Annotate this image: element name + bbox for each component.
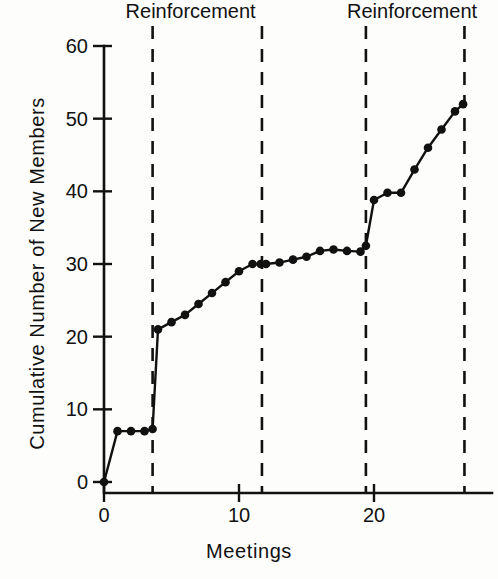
data-point (140, 427, 149, 436)
data-point (383, 188, 392, 197)
data-point (362, 242, 371, 251)
data-point (302, 252, 311, 261)
data-point (100, 478, 109, 487)
data-point (316, 247, 325, 256)
data-point (437, 125, 446, 134)
data-point (329, 245, 338, 254)
cumulative-record-chart: 010203040506001020 ReinforcementReinforc… (0, 0, 498, 579)
data-point (289, 255, 298, 264)
reinforcement-label-2: Reinforcement (347, 0, 477, 23)
data-point (208, 289, 217, 298)
data-point (424, 143, 433, 152)
y-axis-title: Cumulative Number of New Members (26, 74, 49, 474)
data-point (148, 425, 157, 434)
data-point (459, 100, 468, 109)
data-point (113, 427, 122, 436)
data-point (275, 258, 284, 267)
y-tick-label-60: 60 (40, 35, 88, 58)
reinforcement-label-1: Reinforcement (126, 0, 256, 23)
data-point (262, 260, 271, 269)
data-point (410, 165, 419, 174)
data-point (221, 278, 230, 287)
x-tick-label-20: 20 (363, 504, 385, 527)
data-point (154, 325, 163, 334)
x-tick-label-10: 10 (228, 504, 250, 527)
data-point (127, 427, 136, 436)
chart-axes (104, 46, 492, 493)
y-tick-label-0: 0 (40, 471, 88, 494)
x-axis-title: Meetings (0, 540, 498, 563)
data-point (397, 188, 406, 197)
data-point (370, 196, 379, 205)
data-point (343, 247, 352, 256)
data-point (235, 267, 244, 276)
data-point (167, 318, 176, 327)
data-point (451, 107, 460, 116)
data-point (248, 260, 257, 269)
data-line-0 (104, 104, 463, 482)
x-tick-label-0: 0 (98, 504, 109, 527)
data-point (181, 311, 190, 320)
data-point (194, 300, 203, 309)
